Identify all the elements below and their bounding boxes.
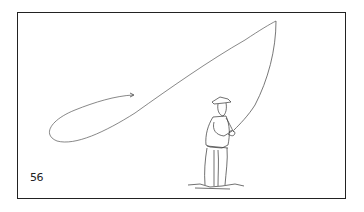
figure-number: 56: [30, 171, 43, 184]
fly-rod: [234, 21, 276, 130]
fly-line: [49, 21, 276, 142]
casting-illustration: [0, 0, 364, 212]
fisherman-figure: [188, 97, 244, 189]
